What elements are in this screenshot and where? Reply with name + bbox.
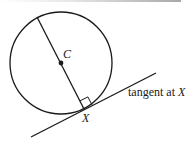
- tangent-label: tangent at X: [128, 85, 186, 99]
- tangent-label-text: tangent at: [128, 85, 178, 99]
- center-label: C: [63, 47, 72, 61]
- center-point: [59, 61, 64, 66]
- tangent-line: [31, 73, 156, 137]
- tangent-label-point: X: [177, 85, 186, 99]
- point-x-label: X: [81, 111, 90, 125]
- tangent-diagram: C X tangent at X: [0, 0, 189, 141]
